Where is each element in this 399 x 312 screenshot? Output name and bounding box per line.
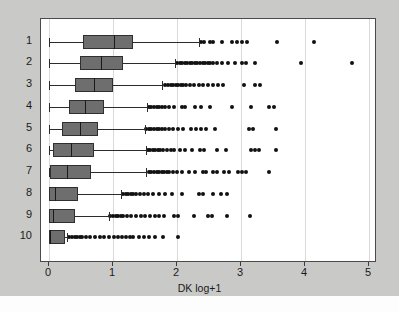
outlier-point bbox=[102, 235, 106, 239]
outlier-point bbox=[215, 61, 219, 65]
category-label-4: 4 bbox=[2, 100, 32, 111]
outlier-point bbox=[170, 192, 174, 196]
upper-whisker bbox=[104, 107, 147, 108]
median-line bbox=[55, 187, 56, 201]
outlier-point bbox=[215, 148, 219, 152]
median-line bbox=[53, 209, 54, 223]
figure-canvas: 12345678910 012345 DK log+1 bbox=[0, 0, 399, 312]
lower-whisker-cap bbox=[49, 103, 50, 112]
outlier-point bbox=[274, 148, 278, 152]
outlier-point bbox=[220, 40, 224, 44]
outlier-point bbox=[245, 40, 249, 44]
category-label-2: 2 bbox=[2, 56, 32, 67]
upper-whisker bbox=[75, 216, 108, 217]
outlier-point bbox=[248, 214, 252, 218]
outlier-point bbox=[171, 127, 175, 131]
upper-whisker-cap bbox=[146, 168, 147, 177]
outlier-point bbox=[163, 192, 167, 196]
outlier-point bbox=[211, 192, 215, 196]
x-tick-label-4: 4 bbox=[294, 266, 314, 278]
outlier-point bbox=[157, 214, 161, 218]
outlier-point bbox=[208, 105, 212, 109]
outlier-point bbox=[272, 105, 276, 109]
upper-whisker bbox=[94, 150, 146, 151]
upper-whisker bbox=[133, 42, 200, 43]
outlier-point bbox=[194, 127, 198, 131]
outlier-point bbox=[151, 192, 155, 196]
gridline-3 bbox=[241, 19, 242, 261]
outlier-point bbox=[199, 127, 203, 131]
outlier-point bbox=[143, 214, 147, 218]
outlier-point bbox=[192, 83, 196, 87]
outlier-point bbox=[176, 127, 180, 131]
upper-whisker bbox=[113, 85, 162, 86]
outlier-point bbox=[206, 83, 210, 87]
upper-whisker-cap bbox=[199, 38, 200, 47]
outlier-point bbox=[176, 214, 180, 218]
category-label-3: 3 bbox=[2, 78, 32, 89]
outlier-point bbox=[224, 148, 228, 152]
outlier-point bbox=[148, 214, 152, 218]
outlier-point bbox=[226, 61, 230, 65]
median-line bbox=[71, 143, 72, 157]
outlier-point bbox=[215, 170, 219, 174]
outlier-point bbox=[142, 235, 146, 239]
lower-whisker-cap bbox=[49, 38, 50, 47]
outlier-point bbox=[178, 148, 182, 152]
median-line bbox=[85, 100, 86, 114]
outlier-point bbox=[221, 83, 225, 87]
outlier-point bbox=[175, 170, 179, 174]
outlier-point bbox=[181, 127, 185, 131]
outlier-point bbox=[211, 83, 215, 87]
x-axis-title: DK log+1 bbox=[0, 282, 399, 294]
outlier-point bbox=[88, 235, 92, 239]
upper-whisker-cap bbox=[121, 190, 122, 199]
lower-whisker bbox=[49, 42, 83, 43]
outlier-point bbox=[146, 192, 150, 196]
outlier-point bbox=[180, 170, 184, 174]
lower-whisker-cap bbox=[49, 125, 50, 134]
category-label-7: 7 bbox=[2, 165, 32, 176]
outlier-point bbox=[244, 170, 248, 174]
outlier-point bbox=[244, 61, 248, 65]
outlier-point bbox=[190, 148, 194, 152]
upper-whisker-cap bbox=[175, 59, 176, 68]
outlier-point bbox=[222, 170, 226, 174]
outlier-point bbox=[167, 105, 171, 109]
outlier-point bbox=[131, 235, 135, 239]
category-label-10: 10 bbox=[2, 230, 32, 241]
upper-whisker-cap bbox=[162, 81, 163, 90]
outlier-point bbox=[193, 170, 197, 174]
upper-whisker-cap bbox=[146, 146, 147, 155]
outlier-point bbox=[189, 127, 193, 131]
gridline-5 bbox=[369, 19, 370, 261]
upper-whisker-cap bbox=[67, 233, 68, 242]
outlier-point bbox=[230, 40, 234, 44]
outlier-point bbox=[225, 214, 229, 218]
outlier-point bbox=[134, 214, 138, 218]
outlier-point bbox=[107, 235, 111, 239]
outlier-point bbox=[312, 40, 316, 44]
outlier-point bbox=[157, 192, 161, 196]
median-line bbox=[67, 165, 68, 179]
x-tick-label-3: 3 bbox=[230, 266, 250, 278]
outlier-point bbox=[204, 127, 208, 131]
gridline-0 bbox=[49, 19, 50, 261]
lower-whisker bbox=[49, 129, 62, 130]
median-line bbox=[50, 230, 51, 244]
outlier-point bbox=[235, 40, 239, 44]
median-line bbox=[94, 78, 95, 92]
lower-whisker-cap bbox=[49, 81, 50, 90]
upper-whisker-cap bbox=[109, 212, 110, 221]
gridline-4 bbox=[305, 19, 306, 261]
outlier-point bbox=[187, 170, 191, 174]
outlier-point bbox=[172, 148, 176, 152]
outlier-point bbox=[201, 192, 205, 196]
outlier-point bbox=[162, 214, 166, 218]
outlier-point bbox=[225, 192, 229, 196]
outlier-point bbox=[267, 105, 271, 109]
lower-whisker bbox=[49, 85, 75, 86]
upper-whisker-cap bbox=[147, 103, 148, 112]
outlier-point bbox=[213, 127, 217, 131]
outlier-point bbox=[176, 235, 180, 239]
